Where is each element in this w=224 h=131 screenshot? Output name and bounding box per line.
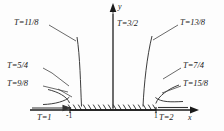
curve-t-11-8 [77, 37, 82, 107]
level-curve-diagram: T=11/8 T=5/4 T=9/8 T=3/2 T=13/8 T=7/4 T=… [0, 0, 224, 131]
leader-t-15-8 [162, 86, 181, 93]
level-curves-right [143, 36, 183, 107]
curve-t-15-8 [155, 98, 183, 102]
curve-label-t-3-2: T=3/2 [117, 19, 138, 28]
y-axis-label: y [118, 3, 122, 11]
curve-label-t-5-4: T=5/4 [7, 61, 28, 70]
leader-t-5-4 [43, 68, 52, 73]
label-leader-lines [43, 25, 181, 97]
leader-t-13-8 [153, 25, 178, 40]
curve-label-t-1: T=1 [37, 113, 51, 122]
curve-label-t-9-8: T=9/8 [7, 79, 28, 88]
leader-t-5-4-b [52, 73, 69, 86]
leader-t-9-8 [43, 86, 68, 92]
curve-label-t-15-8: T=15/8 [183, 79, 208, 88]
curve-label-t-7-4: T=7/4 [183, 61, 204, 70]
curve-label-t-13-8: T=13/8 [180, 18, 205, 27]
level-curves-left [43, 37, 82, 107]
curve-t-13-8 [143, 36, 152, 107]
tick-label-minus-1: -1 [66, 112, 72, 120]
tick-label-1: 1 [154, 112, 158, 120]
leader-t-7-4 [163, 68, 181, 79]
curve-label-t-11-8: T=11/8 [14, 18, 38, 27]
leader-t-9-8-b [58, 89, 72, 97]
x-axis-label: x [188, 114, 192, 122]
y-axis-arrowhead [110, 3, 117, 12]
curve-t-9-8 [43, 97, 69, 105]
leader-t-11-8 [49, 25, 76, 41]
curve-label-t-2: T=2 [159, 113, 173, 122]
